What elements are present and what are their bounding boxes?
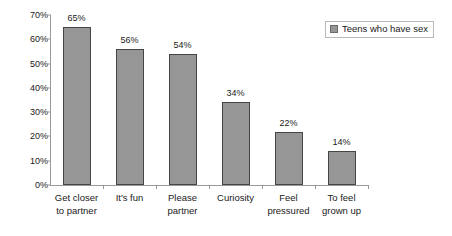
bar[interactable] [116,49,144,185]
bar[interactable] [169,54,197,185]
x-axis-category-labels: Get closer to partnerIt's funPlease part… [50,191,368,233]
x-tick-mark [209,185,210,189]
bar-value-label: 65% [67,14,85,23]
bar[interactable] [63,27,91,185]
y-tick-label: 0% [4,181,48,190]
legend-swatch-icon [330,25,338,33]
bar[interactable] [222,102,250,185]
y-tick-label: 30% [4,108,48,117]
bars-group: 65%56%54%34%22%14% [50,15,368,185]
x-tick-mark [156,185,157,189]
x-tick-mark [368,185,369,189]
bar-slot: 56% [103,15,156,185]
bar-slot: 54% [156,15,209,185]
bar[interactable] [328,151,356,185]
y-tick-label: 40% [4,83,48,92]
chart-legend: Teens who have sex [325,21,434,38]
x-tick-mark [262,185,263,189]
bar-chart: 0%10%20%30%40%50%60%70% 65%56%54%34%22%1… [0,0,452,236]
y-tick-label: 60% [4,35,48,44]
y-tick-label: 10% [4,156,48,165]
category-label: Please partner [156,191,209,217]
legend-label: Teens who have sex [342,24,428,34]
bar-slot: 14% [315,15,368,185]
bar[interactable] [275,132,303,185]
y-tick-label: 20% [4,132,48,141]
bar-value-label: 56% [120,36,138,45]
x-tick-mark [315,185,316,189]
bar-value-label: 34% [226,89,244,98]
category-label: To feel grown up [315,191,368,217]
category-label: Curiosity [209,191,262,204]
category-label: It's fun [103,191,156,204]
bar-slot: 34% [209,15,262,185]
bar-value-label: 22% [279,119,297,128]
bar-slot: 22% [262,15,315,185]
bar-value-label: 14% [332,138,350,147]
x-tick-mark [103,185,104,189]
category-label: Get closer to partner [50,191,103,217]
y-tick-label: 70% [4,11,48,20]
category-label: Feel pressured [262,191,315,217]
bar-slot: 65% [50,15,103,185]
y-axis-ticks: 0%10%20%30%40%50%60%70% [0,0,48,236]
y-tick-label: 50% [4,59,48,68]
bar-value-label: 54% [173,41,191,50]
